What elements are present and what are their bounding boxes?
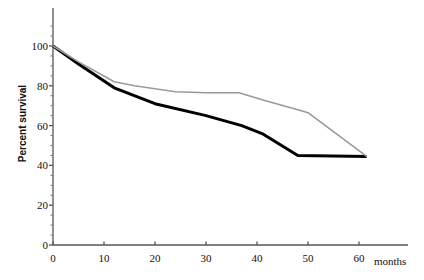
x-tick-label: 60 <box>354 252 365 264</box>
series-gray-curve <box>53 46 367 156</box>
y-tick-label: 40 <box>20 159 48 171</box>
y-tick-label: 100 <box>20 40 48 52</box>
x-tick-label: 30 <box>201 252 212 264</box>
series-black-curve <box>53 46 367 156</box>
x-tick-label: 0 <box>50 252 56 264</box>
x-tick-label: 20 <box>150 252 161 264</box>
x-tick-label: 10 <box>99 252 110 264</box>
x-tick-label: 40 <box>252 252 263 264</box>
axis-lines <box>53 8 408 245</box>
tick-marks <box>49 26 359 245</box>
survival-chart: Percent survival months 020406080100 010… <box>0 0 424 280</box>
x-axis-title: months <box>374 255 406 267</box>
y-tick-label: 60 <box>20 120 48 132</box>
series-lines <box>53 46 367 156</box>
y-tick-label: 20 <box>20 199 48 211</box>
plot-area <box>0 0 424 280</box>
x-tick-label: 50 <box>303 252 314 264</box>
y-tick-label: 80 <box>20 80 48 92</box>
y-tick-label: 0 <box>20 239 48 251</box>
